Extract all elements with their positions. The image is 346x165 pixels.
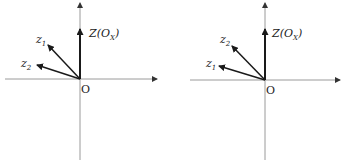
z1-label: z1 bbox=[205, 57, 216, 72]
origin-label: O bbox=[81, 83, 90, 96]
origin-label: O bbox=[266, 84, 275, 97]
z-ox-label: Z(OX) bbox=[271, 27, 302, 42]
diagram-canvas: Z(OX) z1 z2 O Z(OX) z2 z1 O bbox=[0, 0, 346, 165]
z2-label: z2 bbox=[20, 57, 32, 72]
z2-label: z2 bbox=[219, 33, 231, 48]
z-ox-label: Z(OX) bbox=[88, 27, 119, 42]
right-diagram: Z(OX) z2 z1 O bbox=[190, 3, 340, 160]
z1-label: z1 bbox=[35, 33, 46, 48]
left-diagram: Z(OX) z1 z2 O bbox=[5, 3, 157, 160]
